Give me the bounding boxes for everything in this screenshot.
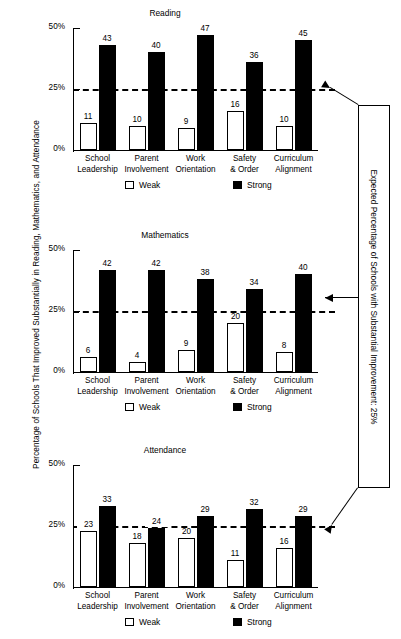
bar-strong [295,40,312,150]
panel-title: Attendance [0,445,330,455]
panel-title: Mathematics [0,230,330,240]
legend-swatch-strong-icon [233,403,242,411]
bar-value-label: 40 [145,42,168,50]
y-tick-label: 50% [49,22,65,31]
x-category-label-line2: Alignment [265,602,322,613]
y-tick-mark [73,250,80,251]
x-category-label: CurriculumAlignment [265,591,322,612]
panel-title: Reading [0,8,330,18]
bar-strong [148,270,165,372]
bar-value-label: 24 [145,518,169,526]
bar-weak [129,126,146,150]
y-tick-mark [73,28,80,29]
legend-item-strong: Strong [233,402,272,412]
x-axis-line [73,587,318,588]
bar-strong [99,45,116,150]
y-tick-mark [73,150,80,151]
legend-item-strong: Strong [233,617,272,627]
y-tick-mark [73,465,80,466]
bar-value-label: 8 [273,342,296,350]
x-category-label: CurriculumAlignment [265,376,322,397]
y-tick-label: 0% [53,581,65,590]
legend-swatch-weak-icon [125,181,134,189]
bar-value-label: 45 [292,30,315,38]
bar-value-label: 32 [243,499,266,507]
bar-value-label: 40 [292,264,315,272]
bar-weak [129,362,146,372]
bar-value-label: 11 [77,113,100,121]
legend-item-weak: Weak [125,617,160,627]
legend-swatch-weak-icon [125,618,134,626]
bar-value-label: 16 [224,101,247,109]
y-tick-label: 0% [53,366,65,375]
bar-weak [227,323,244,372]
bar-value-label: 4 [126,352,149,360]
x-category-label-line2: Alignment [265,387,322,398]
y-tick-label: 25% [49,83,65,92]
bar-strong [99,270,116,372]
bar-strong [148,528,165,587]
legend: WeakStrong [73,402,318,414]
bar-strong [295,516,312,587]
y-tick-label: 25% [49,305,65,314]
x-category-label: CurriculumAlignment [265,154,322,175]
legend-swatch-strong-icon [233,181,242,189]
bar-value-label: 47 [194,25,217,33]
chart-figure: Percentage of Schools That Improved Subs… [0,0,401,639]
bar-value-label: 23 [77,521,101,529]
bar-strong [246,289,263,372]
x-category-label-line1: Curriculum [265,591,322,602]
bar-value-label: 42 [96,260,119,268]
bar-strong [197,516,214,587]
bar-value-label: 33 [96,496,119,504]
bar-value-label: 9 [175,340,198,348]
legend-label-strong: Strong [247,617,272,627]
x-category-label-line2: Alignment [265,165,322,176]
bar-weak [178,350,195,372]
bar-weak [80,123,97,150]
bar-value-label: 20 [224,313,248,321]
callout-label: Expected Percentage of Schools with Subs… [369,108,379,486]
bar-weak [276,126,293,150]
bar-weak [80,531,97,587]
legend: WeakStrong [73,180,318,192]
bar-value-label: 43 [96,35,119,43]
bar-strong [148,52,165,150]
bar-weak [276,352,293,372]
leader-line-attendance [331,487,358,525]
bar-value-label: 29 [292,506,315,514]
x-axis-line [73,150,318,151]
bar-value-label: 42 [145,260,168,268]
leader-line-reading [330,87,359,105]
bar-value-label: 9 [175,118,198,126]
bar-value-label: 11 [224,550,247,558]
bar-value-label: 36 [243,52,266,60]
y-tick-mark [73,372,80,373]
bar-strong [197,35,214,150]
legend-item-weak: Weak [125,180,160,190]
bar-value-label: 16 [273,538,296,546]
bar-value-label: 10 [273,116,296,124]
bar-value-label: 6 [77,347,100,355]
bar-strong [246,62,263,150]
bar-value-label: 38 [194,269,217,277]
y-tick-label: 50% [49,459,65,468]
legend-label-weak: Weak [139,402,160,412]
x-category-label-line1: Curriculum [265,376,322,387]
y-tick-label: 0% [53,144,65,153]
y-tick-label: 50% [49,244,65,253]
legend: WeakStrong [73,617,318,629]
y-tick-label: 25% [49,520,65,529]
arrowhead-attendance [324,523,335,534]
bar-value-label: 29 [194,506,217,514]
bar-value-label: 18 [126,533,149,541]
arrowhead-mathematics [325,294,333,302]
bar-weak [227,560,244,587]
bar-strong [295,274,312,372]
bar-strong [197,279,214,372]
legend-item-weak: Weak [125,402,160,412]
y-tick-mark [73,587,80,588]
legend-swatch-strong-icon [233,618,242,626]
bar-weak [276,548,293,587]
bar-strong [99,506,116,587]
